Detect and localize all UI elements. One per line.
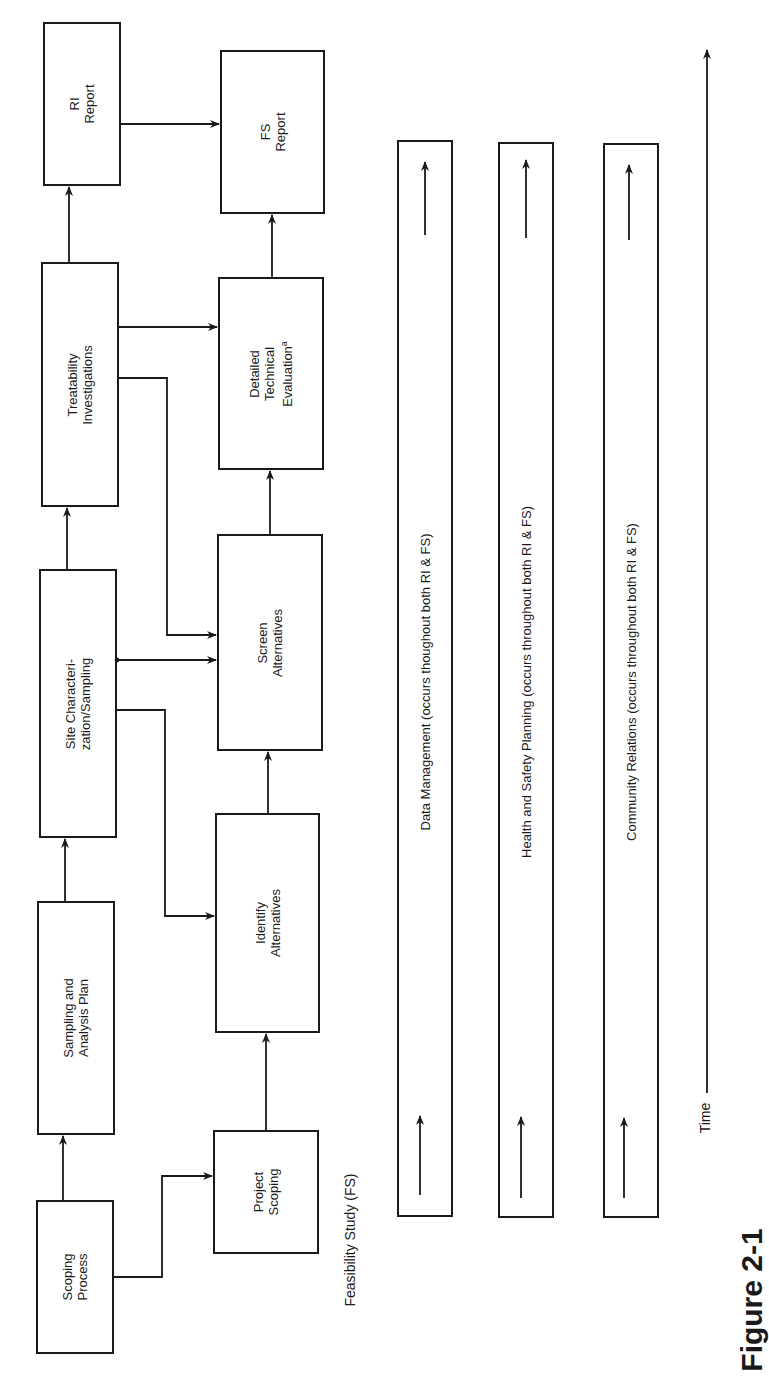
connector-lines <box>0 0 743 1397</box>
